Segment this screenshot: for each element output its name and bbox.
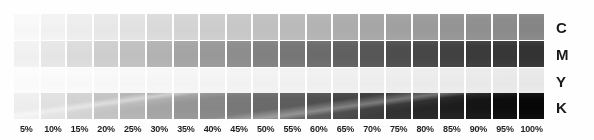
- percent-label: 45%: [227, 122, 252, 136]
- swatch-c-70: [360, 14, 385, 40]
- swatch-row-m: [14, 41, 546, 67]
- swatch-m-85: [440, 41, 465, 67]
- swatch-k-60: [307, 93, 332, 119]
- swatch-m-60: [307, 41, 332, 67]
- percent-label: 90%: [466, 122, 491, 136]
- swatch-row-k: [14, 93, 546, 119]
- percent-label: 100%: [519, 122, 544, 136]
- swatch-m-95: [493, 41, 518, 67]
- swatch-k-45: [227, 93, 252, 119]
- swatch-y-5: [14, 68, 39, 93]
- swatch-m-15: [67, 41, 92, 67]
- swatch-y-40: [200, 68, 225, 93]
- percent-label: 40%: [200, 122, 225, 136]
- percent-label: 30%: [147, 122, 172, 136]
- swatch-m-10: [41, 41, 66, 67]
- swatch-c-5: [14, 14, 39, 40]
- swatch-k-30: [147, 93, 172, 119]
- swatch-c-35: [174, 14, 199, 40]
- percent-label: 75%: [386, 122, 411, 136]
- row-label-k: K: [556, 100, 582, 115]
- swatch-m-70: [360, 41, 385, 67]
- swatch-k-65: [333, 93, 358, 119]
- swatch-m-25: [120, 41, 145, 67]
- percent-label: 10%: [41, 122, 66, 136]
- swatch-c-20: [94, 14, 119, 40]
- swatch-y-10: [41, 68, 66, 93]
- swatch-m-30: [147, 41, 172, 67]
- swatch-y-55: [280, 68, 305, 93]
- swatch-y-80: [413, 68, 438, 93]
- swatch-c-25: [120, 14, 145, 40]
- swatch-y-25: [120, 68, 145, 93]
- swatch-m-75: [386, 41, 411, 67]
- cmyk-tint-chart: C M Y K 5% 10% 15% 20% 25% 30% 35% 40% 4…: [0, 0, 594, 140]
- percent-label: 35%: [174, 122, 199, 136]
- swatch-k-55: [280, 93, 305, 119]
- swatch-k-70: [360, 93, 385, 119]
- swatch-y-70: [360, 68, 385, 93]
- percent-label: 50%: [253, 122, 278, 136]
- percent-label: 15%: [67, 122, 92, 136]
- swatch-k-90: [466, 93, 491, 119]
- swatch-k-50: [253, 93, 278, 119]
- percent-label: 60%: [307, 122, 332, 136]
- swatch-c-65: [333, 14, 358, 40]
- percent-label: 5%: [14, 122, 39, 136]
- row-label-c: C: [556, 20, 582, 35]
- swatch-k-10: [41, 93, 66, 119]
- swatch-k-40: [200, 93, 225, 119]
- swatch-y-65: [333, 68, 358, 93]
- swatch-k-35: [174, 93, 199, 119]
- swatch-m-5: [14, 41, 39, 67]
- swatch-y-35: [174, 68, 199, 93]
- swatch-k-85: [440, 93, 465, 119]
- percent-axis: 5% 10% 15% 20% 25% 30% 35% 40% 45% 50% 5…: [14, 122, 546, 136]
- swatch-c-45: [227, 14, 252, 40]
- percent-label: 25%: [120, 122, 145, 136]
- swatch-c-55: [280, 14, 305, 40]
- swatch-y-90: [466, 68, 491, 93]
- swatch-y-85: [440, 68, 465, 93]
- swatch-c-75: [386, 14, 411, 40]
- swatch-c-10: [41, 14, 66, 40]
- percent-label: 20%: [94, 122, 119, 136]
- row-label-m: M: [556, 47, 582, 62]
- swatch-k-5: [14, 93, 39, 119]
- swatch-c-30: [147, 14, 172, 40]
- swatch-y-100: [519, 68, 544, 93]
- swatch-c-85: [440, 14, 465, 40]
- swatch-c-95: [493, 14, 518, 40]
- swatch-m-45: [227, 41, 252, 67]
- swatch-m-20: [94, 41, 119, 67]
- swatch-y-95: [493, 68, 518, 93]
- swatch-k-75: [386, 93, 411, 119]
- swatch-m-40: [200, 41, 225, 67]
- percent-label: 70%: [360, 122, 385, 136]
- swatch-m-65: [333, 41, 358, 67]
- swatch-m-80: [413, 41, 438, 67]
- percent-label: 95%: [493, 122, 518, 136]
- swatch-c-40: [200, 14, 225, 40]
- swatch-y-30: [147, 68, 172, 93]
- row-label-y: Y: [556, 74, 582, 89]
- swatch-k-25: [120, 93, 145, 119]
- swatch-y-50: [253, 68, 278, 93]
- swatch-k-100: [519, 93, 544, 119]
- swatch-y-20: [94, 68, 119, 93]
- percent-label: 65%: [333, 122, 358, 136]
- swatch-c-60: [307, 14, 332, 40]
- swatch-c-100: [519, 14, 544, 40]
- swatch-row-c: [14, 14, 546, 40]
- swatch-c-15: [67, 14, 92, 40]
- swatch-y-45: [227, 68, 252, 93]
- percent-label: 80%: [413, 122, 438, 136]
- percent-label: 85%: [440, 122, 465, 136]
- swatch-y-15: [67, 68, 92, 93]
- swatch-row-y: [14, 68, 546, 93]
- swatch-m-100: [519, 41, 544, 67]
- swatch-k-15: [67, 93, 92, 119]
- swatch-m-35: [174, 41, 199, 67]
- row-label-column: C M Y K: [556, 14, 586, 119]
- swatch-y-75: [386, 68, 411, 93]
